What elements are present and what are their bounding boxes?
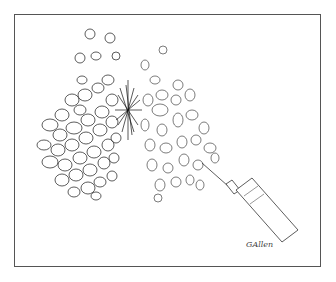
cell-injection-illustration xyxy=(0,0,336,282)
syringe xyxy=(202,163,298,242)
scattered-cells xyxy=(141,46,219,202)
burst-injection-site xyxy=(115,80,142,140)
artist-signature: GAllen xyxy=(246,240,273,249)
needle xyxy=(202,163,228,186)
dense-cell-cluster xyxy=(37,29,121,200)
